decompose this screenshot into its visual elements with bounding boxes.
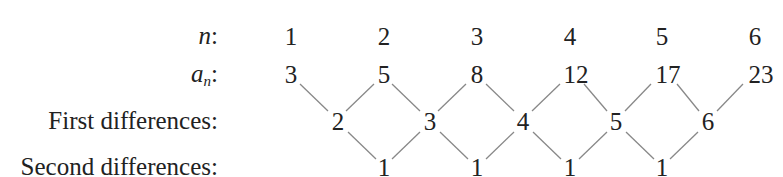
n-value: 1 [285,23,298,51]
first-difference-value: 3 [424,108,437,136]
a-value: 12 [564,61,589,89]
a-value: 17 [656,61,681,89]
first-difference-value: 5 [610,108,623,136]
first-difference-value: 2 [332,108,345,136]
second-difference-value: 1 [471,154,484,177]
second-difference-value: 1 [564,154,577,177]
a-value: 8 [471,61,484,89]
a-value: 5 [378,61,391,89]
first-difference-value: 4 [517,108,530,136]
a-value: 3 [285,61,298,89]
n-value: 5 [656,23,669,51]
second-difference-value: 1 [378,154,391,177]
first-difference-value: 6 [702,108,715,136]
second-difference-value: 1 [656,154,669,177]
n-value: 4 [564,23,577,51]
n-value: 2 [378,23,391,51]
n-value: 6 [749,23,762,51]
a-value: 23 [749,61,774,89]
n-value: 3 [471,23,484,51]
